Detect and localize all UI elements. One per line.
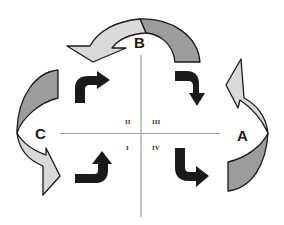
ribbon-left-dark xyxy=(17,70,58,133)
ribbon-right-light xyxy=(226,59,268,133)
node-label-c: C xyxy=(35,125,46,142)
ribbon-left-light xyxy=(17,133,60,195)
bent-arrow-quadrant-1 xyxy=(75,151,112,183)
bent-arrow-quadrant-2 xyxy=(75,71,110,103)
bent-arrow-quadrant-4 xyxy=(175,148,209,187)
bent-arrow-quadrant-3 xyxy=(175,71,205,106)
quadrant-label-3: III xyxy=(152,118,160,126)
node-label-a: A xyxy=(237,127,248,144)
quadrant-label-4: IV xyxy=(152,144,160,152)
quadrant-label-2: II xyxy=(125,118,131,126)
ribbon-arrow-right xyxy=(226,59,268,191)
ribbon-right-dark xyxy=(228,133,268,191)
cycle-diagram: B C A II III I IV xyxy=(0,0,284,225)
node-label-b: B xyxy=(134,34,145,51)
ribbon-top-dark xyxy=(140,19,200,62)
quadrant-label-1: I xyxy=(126,144,129,152)
